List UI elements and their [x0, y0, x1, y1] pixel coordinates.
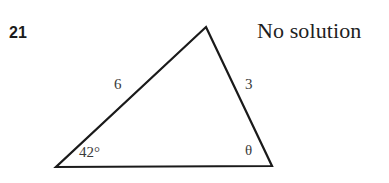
- angle-label-theta: θ: [245, 143, 252, 158]
- figure-canvas: 21 No solution 6 3 42° θ: [0, 0, 389, 183]
- answer-text: No solution: [257, 20, 361, 42]
- problem-number: 21: [9, 25, 27, 41]
- side-label-left: 6: [114, 77, 122, 92]
- angle-label-42-degrees: 42°: [79, 145, 100, 160]
- side-label-right: 3: [245, 77, 253, 92]
